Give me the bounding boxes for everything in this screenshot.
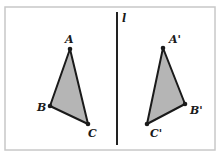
vertex-label-a: A [64,33,74,46]
vertex-point-a-prime [161,46,166,51]
diagram-canvas: l ABC A'B'C' [0,0,219,157]
diagram-frame [5,7,215,150]
reflection-diagram: l ABC A'B'C' [0,0,219,157]
mirror-line-label: l [122,12,126,25]
triangle-abc [50,49,88,124]
vertex-point-a [68,47,73,52]
vertex-label-b-prime: B' [189,104,203,117]
vertex-point-c-prime [145,122,150,127]
vertex-label-a-prime: A' [168,33,181,46]
vertex-label-c-prime: C' [150,127,162,140]
triangle-a-prime-b-prime-c-prime [147,48,185,124]
vertex-point-b [48,104,53,109]
vertex-point-c [86,122,91,127]
vertex-point-b-prime [183,102,188,107]
vertex-label-c: C [88,127,97,140]
vertex-label-b: B [36,101,46,114]
